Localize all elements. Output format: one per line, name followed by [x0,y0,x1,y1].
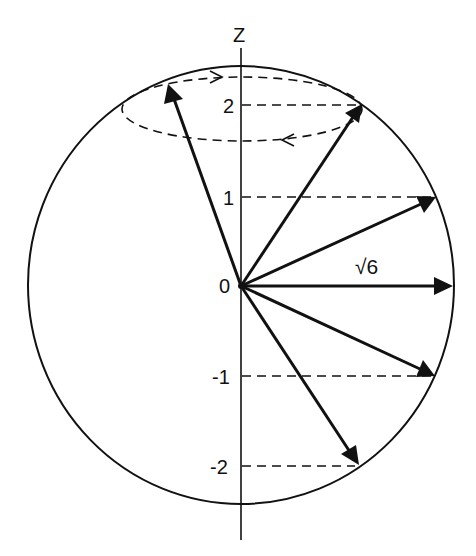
precession-direction-arrow-bottom [282,134,294,146]
vector-m2-front-arrowhead [345,104,362,123]
vector-m2-back-arrowhead [164,84,183,104]
angular-momentum-vector-diagram: Z 2 1 0 -1 -2 √6 [0,0,476,556]
tick-label-2: 2 [223,95,234,117]
precession-cone-ellipse [122,77,362,141]
z-axis-label: Z [233,24,245,46]
vector-m-2-arrowhead [341,445,359,465]
tick-label-1: 1 [223,187,234,209]
origin-point [238,283,244,289]
tick-label-0: 0 [219,275,230,297]
magnitude-label: √6 [355,255,378,278]
tick-label-minus-2: -2 [210,456,228,478]
tick-label-minus-1: -1 [212,366,230,388]
svg-text:√6: √6 [355,255,378,278]
vector-m0-arrowhead [434,277,453,295]
